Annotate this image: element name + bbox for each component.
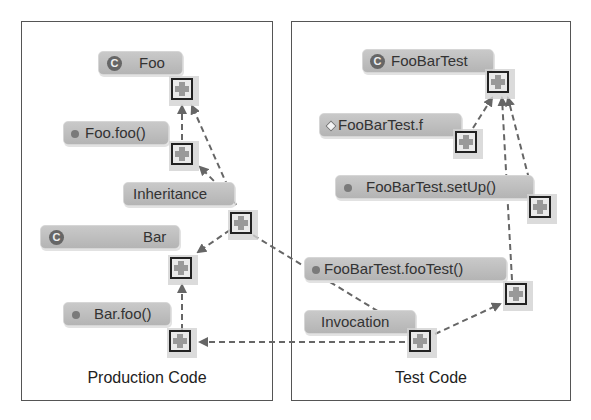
- expand-plus-icon[interactable]: [455, 131, 477, 153]
- class-c-icon: C: [49, 230, 64, 245]
- node-label: Bar.foo(): [94, 303, 152, 325]
- node-footest-method[interactable]: FooBarTest.fooTest(): [304, 257, 507, 281]
- node-label: FooBarTest.setUp(): [366, 176, 496, 198]
- node-label: Inheritance: [133, 183, 207, 205]
- expand-plus-icon[interactable]: [505, 283, 527, 305]
- node-foo-class[interactable]: C Foo: [98, 51, 183, 75]
- node-label: FooBarTest.f: [338, 114, 423, 136]
- production-code-panel: Production Code: [21, 21, 273, 401]
- expand-plus-icon[interactable]: [529, 196, 551, 218]
- field-diamond-icon: [325, 120, 336, 131]
- method-dot-icon: [71, 130, 79, 138]
- expand-plus-icon[interactable]: [230, 212, 252, 234]
- node-label: Bar: [143, 226, 166, 248]
- expand-plus-icon[interactable]: [171, 143, 193, 165]
- node-label: FooBarTest: [391, 50, 468, 72]
- expand-plus-icon[interactable]: [169, 330, 191, 352]
- test-code-title: Test Code: [292, 369, 570, 387]
- node-bar-method[interactable]: Bar.foo(): [63, 302, 171, 326]
- expand-plus-icon[interactable]: [170, 257, 192, 279]
- method-dot-icon: [312, 266, 320, 274]
- expand-plus-icon[interactable]: [171, 78, 193, 100]
- expand-plus-icon[interactable]: [487, 71, 509, 93]
- node-label: Foo: [139, 52, 165, 74]
- node-foo-method[interactable]: Foo.foo(): [63, 121, 169, 145]
- node-bar-class[interactable]: C Bar: [40, 225, 180, 249]
- class-c-icon: C: [370, 54, 385, 69]
- node-label: FooBarTest.fooTest(): [324, 258, 463, 280]
- node-label: Invocation: [321, 311, 389, 333]
- node-inheritance[interactable]: Inheritance: [123, 182, 235, 206]
- node-foobartest-class[interactable]: C FooBarTest: [362, 49, 494, 73]
- expand-plus-icon[interactable]: [409, 330, 431, 352]
- method-dot-icon: [344, 184, 352, 192]
- node-label: Foo.foo(): [85, 122, 146, 144]
- production-code-title: Production Code: [22, 369, 272, 387]
- node-setup-method[interactable]: FooBarTest.setUp(): [335, 175, 534, 199]
- node-invocation[interactable]: Invocation: [304, 310, 416, 334]
- method-dot-icon: [72, 311, 80, 319]
- class-c-icon: C: [107, 56, 122, 71]
- node-foobartest-field[interactable]: FooBarTest.f: [319, 113, 462, 137]
